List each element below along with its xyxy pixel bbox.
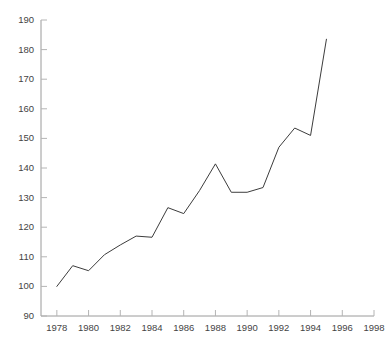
x-tick-label: 1988: [205, 323, 226, 333]
y-tick-label: 170: [0, 74, 34, 84]
x-axis-ticks: [57, 310, 374, 316]
x-tick-label: 1982: [110, 323, 131, 333]
y-tick-label: 190: [0, 15, 34, 25]
y-axis-ticks: [41, 20, 47, 316]
y-tick-label: 160: [0, 104, 34, 114]
y-tick-label: 100: [0, 281, 34, 291]
y-tick-label: 130: [0, 193, 34, 203]
y-tick-label: 150: [0, 133, 34, 143]
x-tick-label: 1996: [332, 323, 353, 333]
x-tick-label: 1984: [141, 323, 162, 333]
y-tick-label: 180: [0, 45, 34, 55]
y-tick-label: 140: [0, 163, 34, 173]
x-tick-label: 1994: [300, 323, 321, 333]
x-tick-label: 1990: [237, 323, 258, 333]
data-series-line: [57, 39, 327, 286]
line-chart: 90100110120130140150160170180190 1978198…: [0, 0, 385, 339]
y-tick-label: 110: [0, 252, 34, 262]
axis-spines: [41, 20, 374, 316]
x-tick-label: 1978: [46, 323, 67, 333]
y-tick-label: 120: [0, 222, 34, 232]
y-tick-label: 90: [0, 311, 34, 321]
plot-area: [0, 0, 385, 339]
x-tick-label: 1992: [268, 323, 289, 333]
x-tick-label: 1986: [173, 323, 194, 333]
x-tick-label: 1980: [78, 323, 99, 333]
x-tick-label: 1998: [363, 323, 384, 333]
